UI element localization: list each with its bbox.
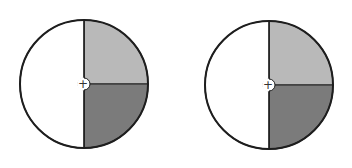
slice-white-half xyxy=(20,20,84,148)
slice-white-half xyxy=(205,21,269,149)
pie-diagram-left: + xyxy=(0,0,176,168)
pie-diagram-right: + xyxy=(176,0,352,168)
center-plus-icon: + xyxy=(263,78,273,92)
center-plus-icon: + xyxy=(78,77,88,91)
